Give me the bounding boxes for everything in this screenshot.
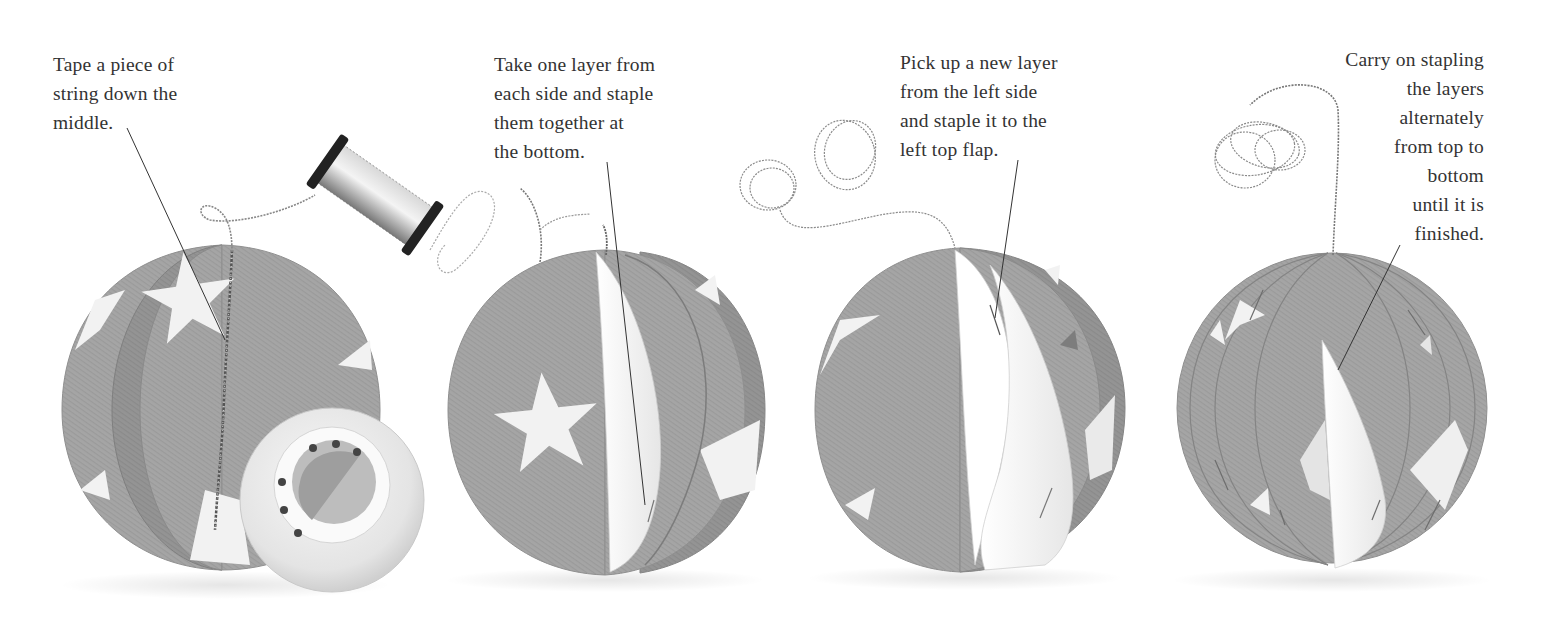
caption-line: from the left side xyxy=(900,77,1058,106)
caption-line: Carry on stapling xyxy=(1284,45,1484,74)
instruction-strip: Tape a piece of string down the middle. … xyxy=(0,0,1550,637)
step-1-illustration xyxy=(60,128,495,599)
step-3-illustration xyxy=(740,113,1125,590)
step-4-caption: Carry on stapling the layers alternately… xyxy=(1284,45,1484,248)
caption-line: Pick up a new layer xyxy=(900,48,1058,77)
caption-line: the bottom. xyxy=(494,137,655,166)
caption-line: bottom xyxy=(1284,161,1484,190)
caption-line: and staple it to the xyxy=(900,106,1058,135)
caption-line: each side and staple xyxy=(494,79,655,108)
step-2-caption: Take one layer from each side and staple… xyxy=(494,50,655,166)
caption-line: the layers xyxy=(1284,74,1484,103)
step-2-illustration xyxy=(445,162,765,592)
caption-line: from top to xyxy=(1284,132,1484,161)
caption-line: left top flap. xyxy=(900,135,1058,164)
step-1-caption: Tape a piece of string down the middle. xyxy=(53,50,177,137)
caption-line: string down the xyxy=(53,79,177,108)
caption-line: until it is xyxy=(1284,190,1484,219)
caption-line: Tape a piece of xyxy=(53,50,177,79)
caption-line: them together at xyxy=(494,108,655,137)
caption-line: alternately xyxy=(1284,103,1484,132)
step-3-caption: Pick up a new layer from the left side a… xyxy=(900,48,1058,164)
caption-line: Take one layer from xyxy=(494,50,655,79)
caption-line: finished. xyxy=(1284,219,1484,248)
caption-line: middle. xyxy=(53,108,177,137)
